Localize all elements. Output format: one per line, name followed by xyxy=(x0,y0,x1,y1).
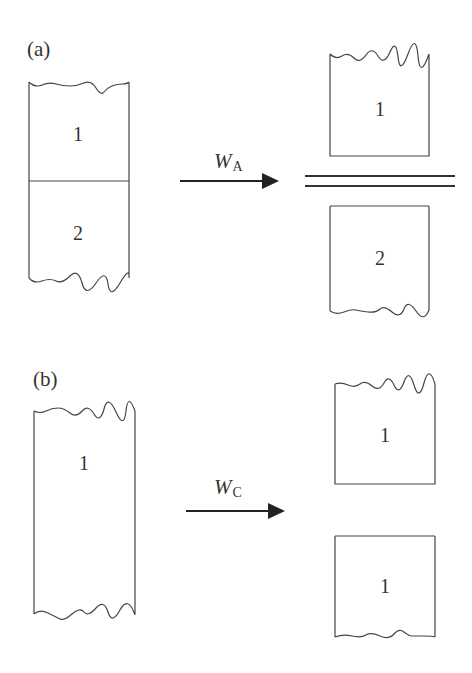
separated-label-2: 1 xyxy=(380,575,390,597)
column-b-outline xyxy=(34,402,135,620)
phase-label-2: 2 xyxy=(73,222,83,244)
panel-b-before-column: 1 xyxy=(34,402,135,620)
separated-label-2: 2 xyxy=(375,247,385,269)
column-a-outline xyxy=(29,82,129,292)
panel-b-label: (b) xyxy=(33,367,58,391)
arrow-head-icon xyxy=(262,173,279,189)
separated-label-1: 1 xyxy=(375,98,385,120)
arrow-head-icon xyxy=(268,503,285,519)
panel-a-after: 1 2 xyxy=(305,43,455,316)
phase-label-1: 1 xyxy=(79,452,89,474)
panel-b-after: 1 1 xyxy=(335,374,435,638)
phase-label-1: 1 xyxy=(73,123,83,145)
separated-label-1: 1 xyxy=(380,424,390,446)
arrow-work-of-adhesion: WA xyxy=(180,149,279,189)
panel-b: (b) 1 WC 1 1 xyxy=(33,367,435,638)
panel-a-label: (a) xyxy=(27,37,50,61)
work-of-adhesion-cohesion-diagram: (a) 1 2 WA 1 2 (b) 1 xyxy=(0,0,472,673)
arrow-work-of-cohesion: WC xyxy=(186,475,285,519)
arrow-label-wc: WC xyxy=(214,475,242,500)
arrow-label-wa: WA xyxy=(214,149,244,174)
panel-a-before-column: 1 2 xyxy=(29,82,129,292)
panel-a: (a) 1 2 WA 1 2 xyxy=(27,37,455,317)
